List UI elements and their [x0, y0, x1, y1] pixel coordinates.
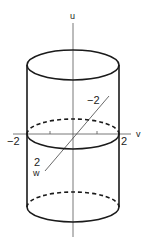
- w-tick-neg-label: −2: [87, 94, 100, 106]
- w-axis-label: w: [32, 168, 40, 178]
- u-axis-label: u: [70, 11, 75, 21]
- v-tick-neg-label: −2: [7, 135, 20, 147]
- w-axis: [45, 96, 109, 171]
- v-axis-label: v: [136, 129, 141, 139]
- v-tick-pos-label: 2: [121, 135, 127, 147]
- cylinder-diagram: u v −2 2 −2 2 w: [0, 0, 153, 237]
- w-tick-pos-label: 2: [34, 156, 40, 168]
